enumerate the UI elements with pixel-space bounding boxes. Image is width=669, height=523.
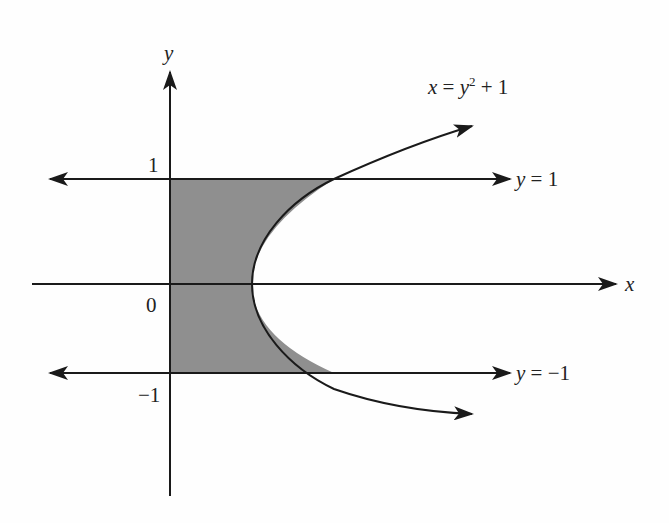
tick-label-1: 1 bbox=[148, 153, 159, 177]
tick-label-0: 0 bbox=[146, 293, 157, 317]
tick-label-neg1: −1 bbox=[138, 383, 160, 407]
line-y-equals-1-label: y = 1 bbox=[514, 167, 558, 191]
parabola-label: x = y2 + 1 bbox=[427, 74, 508, 99]
line-y-equals-neg1-label: y = −1 bbox=[514, 361, 570, 385]
x-axis-label: x bbox=[624, 272, 635, 296]
diagram-canvas: y x 1 0 −1 x = y2 + 1 y = 1 y = −1 bbox=[0, 0, 669, 523]
y-axis-label: y bbox=[162, 41, 174, 65]
